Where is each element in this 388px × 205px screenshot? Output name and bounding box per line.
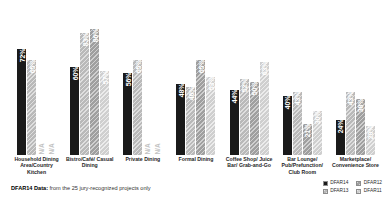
bar-slot: N/A (47, 8, 56, 155)
bar-value-label: 57% (100, 71, 109, 84)
bar-value-label: 48% (176, 84, 185, 97)
bar-slot: 53% (206, 8, 215, 155)
bar-slot: 56% (123, 8, 132, 155)
bar-value-label: 43% (293, 92, 302, 105)
bar: 40% (283, 96, 292, 155)
plot-area: 72%65%N/AN/A60%83%86%57%56%65%N/AN/A48%4… (10, 8, 382, 155)
legend-label: DFAR11 (364, 188, 382, 194)
grouped-bar-chart: 72%65%N/AN/A60%83%86%57%56%65%N/AN/A48%4… (0, 0, 388, 205)
bar-slot: 65% (196, 8, 205, 155)
bar-group: 72%65%N/AN/A (10, 8, 63, 155)
bar-value-label: 86% (90, 28, 99, 41)
bar-value-label: 60% (70, 67, 79, 80)
category-axis: Household Dining Area/Country KitchenBis… (10, 156, 382, 175)
bar-na-label: N/A (48, 143, 56, 154)
bar-group: 48%46%65%53% (169, 8, 222, 155)
legend-item[interactable]: DFAR12 (356, 180, 382, 186)
bar-value-label: 65% (27, 59, 36, 72)
chart-footnote: DFAR14 Data: from the 25 jury-recognized… (11, 184, 151, 192)
bar-value-label: 63% (260, 62, 269, 75)
bar-slot: 46% (186, 8, 195, 155)
category-label: Private Dining (116, 156, 169, 175)
bar-value-label: 52% (240, 78, 249, 91)
bar-slot: N/A (153, 8, 162, 155)
bar-value-label: 50% (250, 81, 259, 94)
bar-slot: 43% (346, 8, 355, 155)
footnote-lead: DFAR14 Data: (11, 185, 48, 191)
bar-slot: 20% (366, 8, 375, 155)
bar-value-label: 24% (336, 119, 345, 132)
legend-label: DFAR12 (364, 180, 382, 186)
bar-na-label: N/A (154, 143, 162, 154)
bar-value-label: 56% (123, 72, 132, 85)
bar-value-label: 20% (366, 125, 375, 138)
category-label: Coffee Shop/ Juice Bar/ Grab-and-Go (223, 156, 276, 175)
bar-value-label: 72% (17, 49, 26, 62)
bar: 56% (123, 73, 132, 155)
bar: 65% (27, 60, 36, 156)
bar-slot: 72% (17, 8, 26, 155)
legend-item[interactable]: DFAR14 (323, 180, 349, 186)
bar: 50% (250, 82, 259, 156)
legend-swatch-icon (323, 189, 328, 194)
legend-label: DFAR13 (330, 188, 348, 194)
bar: 43% (293, 92, 302, 155)
bar: 65% (133, 60, 142, 156)
legend-item[interactable]: DFAR11 (356, 188, 382, 194)
bar-slot: 43% (293, 8, 302, 155)
bar-value-label: 65% (133, 59, 142, 72)
bar-slot: 38% (356, 8, 365, 155)
legend-item[interactable]: DFAR13 (323, 188, 349, 194)
chart-legend: DFAR14DFAR12DFAR13DFAR11 (323, 180, 382, 194)
category-label: Bistro/Café/ Casual Dining (63, 156, 116, 175)
bar: 65% (196, 60, 205, 156)
bar-slot: 52% (240, 8, 249, 155)
bar: 60% (70, 67, 79, 155)
bar-group: 60%83%86%57% (63, 8, 116, 155)
bar-slot: 60% (70, 8, 79, 155)
bar-value-label: 30% (313, 111, 322, 124)
bar-group: 24%43%38%20% (329, 8, 382, 155)
bar: 52% (240, 79, 249, 155)
bar: 53% (206, 77, 215, 155)
bar-na-label: N/A (38, 143, 46, 154)
bar: 20% (366, 126, 375, 155)
category-label: Bar Lounge/ Pub/Prefunction/ Club Room (276, 156, 329, 175)
bar-value-label: 21% (303, 124, 312, 137)
bar-value-label: 38% (356, 99, 365, 112)
bar-group: 40%43%21%30% (276, 8, 329, 155)
bar-slot: 44% (230, 8, 239, 155)
category-label: Formal Dining (169, 156, 222, 175)
bar: 43% (346, 92, 355, 155)
bar-value-label: 83% (80, 33, 89, 46)
bar-value-label: 46% (186, 87, 195, 100)
bar-group: 44%52%50%63% (223, 8, 276, 155)
bar-value-label: 53% (206, 77, 215, 90)
bar-slot: 21% (303, 8, 312, 155)
bar-slot: 57% (100, 8, 109, 155)
footnote-text: from the 25 jury-recognized projects onl… (48, 185, 151, 191)
legend-swatch-icon (323, 181, 328, 186)
legend-swatch-icon (356, 181, 361, 186)
bar-group: 56%65%N/AN/A (116, 8, 169, 155)
bar: 38% (356, 99, 365, 155)
bar-value-label: 65% (196, 59, 205, 72)
bar-slot: N/A (37, 8, 46, 155)
bar-value-label: 40% (283, 96, 292, 109)
bar-slot: 83% (80, 8, 89, 155)
bar-slot: 24% (336, 8, 345, 155)
bar: 44% (230, 90, 239, 155)
bar: 48% (176, 84, 185, 155)
legend-label: DFAR14 (330, 180, 348, 186)
bar-value-label: 43% (346, 92, 355, 105)
bar-slot: 65% (133, 8, 142, 155)
bar: 21% (303, 124, 312, 155)
bar: 72% (17, 49, 26, 155)
bar: 57% (100, 71, 109, 155)
bar-slot: 30% (313, 8, 322, 155)
bar: 24% (336, 120, 345, 155)
bar-slot: 48% (176, 8, 185, 155)
bar: 30% (313, 111, 322, 155)
bar-na-label: N/A (144, 143, 152, 154)
bar-slot: 50% (250, 8, 259, 155)
